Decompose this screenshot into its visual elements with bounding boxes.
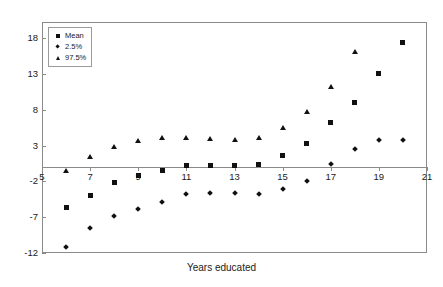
x-tick-label: 19 — [367, 172, 391, 182]
x-tick-label: 13 — [223, 172, 247, 182]
data-point-square — [112, 180, 117, 185]
x-tick-label: 21 — [415, 172, 439, 182]
data-point-square — [88, 193, 93, 198]
data-point-square — [304, 141, 309, 146]
data-point-square — [184, 163, 189, 168]
data-point-square — [160, 168, 165, 173]
legend-label-mean: Mean — [65, 32, 84, 40]
y-tick — [42, 146, 46, 147]
y-tick-label: -7 — [0, 212, 38, 222]
data-point-triangle — [232, 137, 238, 142]
data-point-triangle — [135, 138, 141, 143]
x-tick-label: 11 — [174, 172, 198, 182]
y-tick-label: 8 — [0, 105, 38, 115]
legend-item-upper-bound: 97.5% — [53, 53, 86, 63]
data-point-square — [136, 173, 141, 178]
mean-square-icon — [53, 34, 62, 38]
x-tick-label: 17 — [319, 172, 343, 182]
data-point-square — [256, 162, 261, 167]
legend-label-upper-bound: 97.5% — [65, 54, 86, 62]
data-point-square — [328, 120, 333, 125]
y-tick — [42, 110, 46, 111]
upper-bound-triangle-icon — [53, 56, 62, 60]
y-tick-label: 18 — [0, 33, 38, 43]
data-point-triangle — [280, 125, 286, 130]
data-point-square — [208, 163, 213, 168]
x-tick-label: 7 — [78, 172, 102, 182]
data-point-triangle — [183, 135, 189, 140]
data-point-triangle — [87, 154, 93, 159]
data-point-square — [352, 100, 357, 105]
data-point-square — [400, 40, 405, 45]
y-tick — [42, 38, 46, 39]
data-point-triangle — [63, 168, 69, 173]
data-point-triangle — [304, 109, 310, 114]
x-tick-label: 5 — [30, 172, 54, 182]
data-point-triangle — [159, 135, 165, 140]
y-tick — [42, 74, 46, 75]
y-tick-label: 3 — [0, 141, 38, 151]
x-tick-label: 15 — [271, 172, 295, 182]
data-point-square — [64, 205, 69, 210]
y-tick — [42, 253, 46, 254]
legend-label-lower-bound: 2.5% — [65, 43, 82, 51]
data-point-triangle — [352, 49, 358, 54]
legend-item-lower-bound: 2.5% — [53, 42, 86, 52]
data-point-triangle — [328, 84, 334, 89]
x-axis-title: Years educated — [0, 262, 443, 273]
data-point-square — [376, 71, 381, 76]
data-point-square — [232, 163, 237, 168]
scatter-chart-figure: 181383-2-7-12 579111315171921 Mean 2.5% … — [0, 0, 443, 287]
y-tick — [42, 217, 46, 218]
legend-item-mean: Mean — [53, 31, 86, 41]
data-point-triangle — [256, 135, 262, 140]
lower-bound-diamond-icon — [53, 45, 62, 48]
y-tick-label: -12 — [0, 248, 38, 258]
data-point-triangle — [207, 136, 213, 141]
data-point-square — [280, 153, 285, 158]
chart-legend: Mean 2.5% 97.5% — [48, 27, 92, 67]
data-point-triangle — [111, 144, 117, 149]
y-tick-label: 13 — [0, 69, 38, 79]
